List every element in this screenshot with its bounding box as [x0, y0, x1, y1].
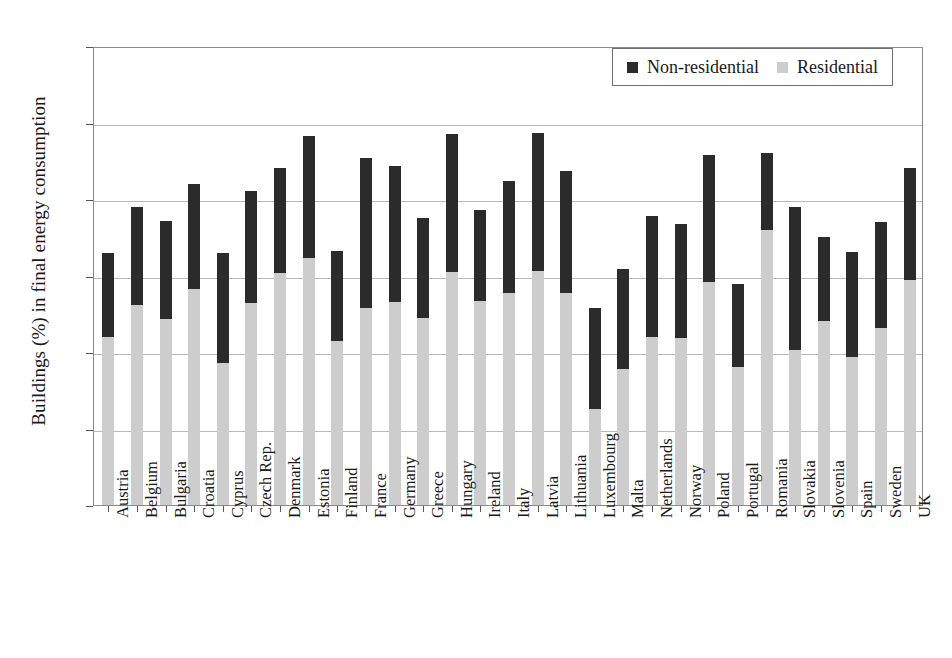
bar-stack[interactable]: [102, 48, 114, 505]
x-tick-label: Austria: [113, 469, 133, 518]
bar-stack[interactable]: [188, 48, 200, 505]
bar-segment-non-residential[interactable]: [560, 171, 572, 293]
bar-stack[interactable]: [474, 48, 486, 505]
x-tick-mark: [824, 506, 825, 512]
bar-segment-non-residential[interactable]: [102, 253, 114, 337]
bar-stack[interactable]: [646, 48, 658, 505]
bar-segment-non-residential[interactable]: [904, 168, 916, 280]
bar-stack[interactable]: [303, 48, 315, 505]
x-tick-mark: [223, 506, 224, 512]
bar-stack[interactable]: [532, 48, 544, 505]
bar-segment-non-residential[interactable]: [245, 191, 257, 303]
bar-stack[interactable]: [904, 48, 916, 505]
legend-item-residential[interactable]: Residential: [777, 57, 878, 78]
bar-stack[interactable]: [446, 48, 458, 505]
y-tick-mark: [86, 277, 93, 278]
x-tick-label: Latvia: [543, 476, 563, 518]
x-tick-mark: [881, 506, 882, 512]
chart-legend: Non-residential Residential: [612, 48, 893, 86]
bar-stack[interactable]: [560, 48, 572, 505]
x-tick-mark: [738, 506, 739, 512]
x-tick-label: Poland: [714, 472, 734, 518]
bar-stack[interactable]: [732, 48, 744, 505]
bar-segment-non-residential[interactable]: [274, 168, 286, 274]
bar-stack[interactable]: [160, 48, 172, 505]
bar-stack[interactable]: [761, 48, 773, 505]
bar-segment-non-residential[interactable]: [417, 218, 429, 318]
bar-segment-non-residential[interactable]: [331, 251, 343, 341]
bar-series-group: [94, 48, 922, 505]
bar-segment-residential[interactable]: [446, 272, 458, 505]
x-tick-mark: [280, 506, 281, 512]
bar-segment-non-residential[interactable]: [703, 155, 715, 282]
bar-segment-non-residential[interactable]: [532, 133, 544, 271]
bar-stack[interactable]: [875, 48, 887, 505]
x-tick-label: Finland: [342, 468, 362, 518]
bar-stack[interactable]: [818, 48, 830, 505]
x-tick-label: Germany: [400, 457, 420, 518]
bar-stack[interactable]: [274, 48, 286, 505]
y-tick-mark: [86, 47, 93, 48]
y-axis-title: Buildings (%) in final energy consumptio…: [28, 26, 50, 496]
x-tick-mark: [423, 506, 424, 512]
legend-item-non-residential[interactable]: Non-residential: [627, 57, 759, 78]
x-tick-label: Romania: [772, 458, 792, 518]
bar-segment-non-residential[interactable]: [160, 221, 172, 319]
bar-stack[interactable]: [675, 48, 687, 505]
legend-swatch-non-residential: [627, 62, 638, 73]
x-tick-mark: [709, 506, 710, 512]
bar-stack[interactable]: [503, 48, 515, 505]
bar-segment-non-residential[interactable]: [789, 207, 801, 351]
bar-segment-non-residential[interactable]: [503, 181, 515, 293]
bar-segment-non-residential[interactable]: [389, 166, 401, 301]
x-tick-label: Slovakia: [800, 460, 820, 518]
bar-stack[interactable]: [245, 48, 257, 505]
y-tick-mark: [86, 200, 93, 201]
bar-segment-non-residential[interactable]: [446, 134, 458, 272]
x-tick-mark: [681, 506, 682, 512]
stacked-bar-chart: Buildings (%) in final energy consumptio…: [0, 0, 952, 658]
bar-stack[interactable]: [703, 48, 715, 505]
bar-stack[interactable]: [846, 48, 858, 505]
x-tick-label: Lithuania: [571, 455, 591, 518]
bar-segment-non-residential[interactable]: [188, 184, 200, 290]
x-tick-mark: [194, 506, 195, 512]
bar-segment-residential[interactable]: [532, 271, 544, 505]
bar-segment-non-residential[interactable]: [303, 136, 315, 258]
bar-segment-non-residential[interactable]: [818, 237, 830, 320]
x-tick-mark: [910, 506, 911, 512]
bar-stack[interactable]: [389, 48, 401, 505]
y-tick-mark: [86, 353, 93, 354]
x-tick-label: Estonia: [314, 469, 334, 519]
y-tick-mark: [86, 430, 93, 431]
bar-stack[interactable]: [360, 48, 372, 505]
x-tick-mark: [767, 506, 768, 512]
bar-segment-non-residential[interactable]: [875, 222, 887, 328]
bar-stack[interactable]: [789, 48, 801, 505]
bar-segment-non-residential[interactable]: [360, 158, 372, 309]
bar-segment-non-residential[interactable]: [646, 216, 658, 337]
x-tick-label: Sweden: [886, 466, 906, 518]
x-tick-mark: [852, 506, 853, 512]
bar-segment-non-residential[interactable]: [217, 253, 229, 363]
x-tick-label: Netherlands: [657, 438, 677, 518]
bar-stack[interactable]: [131, 48, 143, 505]
x-tick-mark: [166, 506, 167, 512]
x-tick-mark: [309, 506, 310, 512]
bar-segment-non-residential[interactable]: [131, 207, 143, 305]
bar-segment-non-residential[interactable]: [846, 252, 858, 358]
x-tick-label: Hungary: [457, 460, 477, 518]
bar-stack[interactable]: [331, 48, 343, 505]
bar-stack[interactable]: [217, 48, 229, 505]
bar-segment-non-residential[interactable]: [675, 224, 687, 338]
bar-segment-non-residential[interactable]: [474, 210, 486, 300]
bar-segment-non-residential[interactable]: [617, 269, 629, 368]
bar-segment-non-residential[interactable]: [761, 153, 773, 230]
x-tick-label: Luxembourg: [600, 433, 620, 518]
x-tick-label: Malta: [628, 480, 648, 519]
x-tick-label: Cyprus: [228, 470, 248, 518]
plot-area: [93, 47, 923, 506]
bar-segment-non-residential[interactable]: [732, 284, 744, 367]
bar-stack[interactable]: [417, 48, 429, 505]
bar-segment-non-residential[interactable]: [589, 308, 601, 409]
